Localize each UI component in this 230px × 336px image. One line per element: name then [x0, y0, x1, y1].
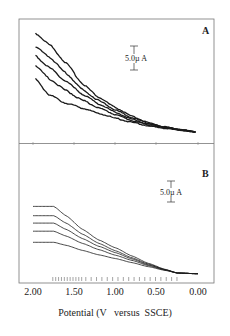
x-tick-label: 0.00 [189, 286, 207, 297]
panel-label-b: B [202, 168, 209, 179]
curve-3 [33, 223, 198, 274]
curve-2 [33, 216, 198, 274]
x-axis-label: Potential (V versus SSCE) [0, 307, 230, 318]
panel-label-a: A [202, 25, 209, 36]
curve-2 [36, 47, 196, 132]
x-tick-label: 2.00 [24, 286, 42, 297]
curve-4 [36, 66, 196, 133]
plot-frame [19, 19, 214, 283]
curve-5 [33, 242, 198, 273]
scale-label-b: 5.0µ A [159, 188, 183, 197]
panel-a-curves [36, 33, 196, 132]
curve-1 [33, 206, 198, 273]
x-tick-label: 1.50 [65, 286, 83, 297]
x-tick-label: 1.00 [106, 286, 124, 297]
x-tick-label: 0.50 [147, 286, 165, 297]
panel-b-curves [33, 206, 198, 273]
potential-markers [53, 277, 177, 281]
scale-label-a: 5.0µ A [124, 54, 148, 63]
curve-5 [36, 78, 196, 131]
